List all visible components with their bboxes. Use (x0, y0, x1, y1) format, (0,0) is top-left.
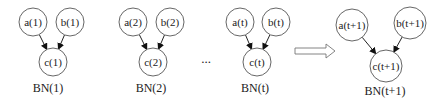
node-label: c(2) (144, 56, 162, 69)
node-label: a(t) (232, 16, 248, 29)
network-label: BN(1) (33, 81, 64, 95)
node-label: b(t) (268, 16, 284, 29)
node-c: c(1) (39, 48, 67, 76)
edge-arrow (362, 37, 376, 53)
edge-arrow (263, 35, 270, 50)
edge-arrow (394, 37, 402, 52)
node-label: b(t+1) (396, 17, 424, 30)
network-label: BN(t) (241, 81, 269, 95)
node-a: a(t+1) (336, 9, 368, 41)
node-label: a(1) (24, 16, 42, 29)
network-label: BN(t+1) (365, 84, 406, 98)
node-label: c(t) (249, 56, 265, 69)
node-b: b(2) (156, 8, 184, 36)
node-b: b(t) (262, 8, 290, 36)
node-label: c(t+1) (373, 60, 400, 73)
node-label: a(t+1) (339, 19, 366, 32)
node-c: c(2) (139, 48, 167, 76)
ellipsis: ... (201, 51, 211, 66)
edge-arrow (39, 35, 46, 50)
node-a: a(1) (19, 8, 47, 36)
node-label: c(1) (44, 56, 62, 69)
node-c: c(t+1) (370, 50, 402, 82)
edge-arrow (245, 35, 251, 49)
node-c: c(t) (243, 48, 271, 76)
network-label: BN(2) (136, 81, 167, 95)
node-a: a(t) (226, 8, 254, 36)
edge-arrow (139, 35, 146, 50)
transition-arrow-icon (295, 44, 335, 58)
node-a: a(2) (119, 8, 147, 36)
node-label: b(1) (61, 16, 80, 29)
node-label: b(2) (161, 16, 180, 29)
dbn-diagram: a(1)b(1)c(1)a(2)b(2)c(2)a(t)b(t)c(t)a(t+… (0, 0, 443, 103)
edge-arrow (158, 35, 164, 49)
node-label: a(2) (124, 16, 142, 29)
edge-arrow (58, 35, 64, 49)
node-b: b(t+1) (394, 7, 426, 39)
node-b: b(1) (56, 8, 84, 36)
